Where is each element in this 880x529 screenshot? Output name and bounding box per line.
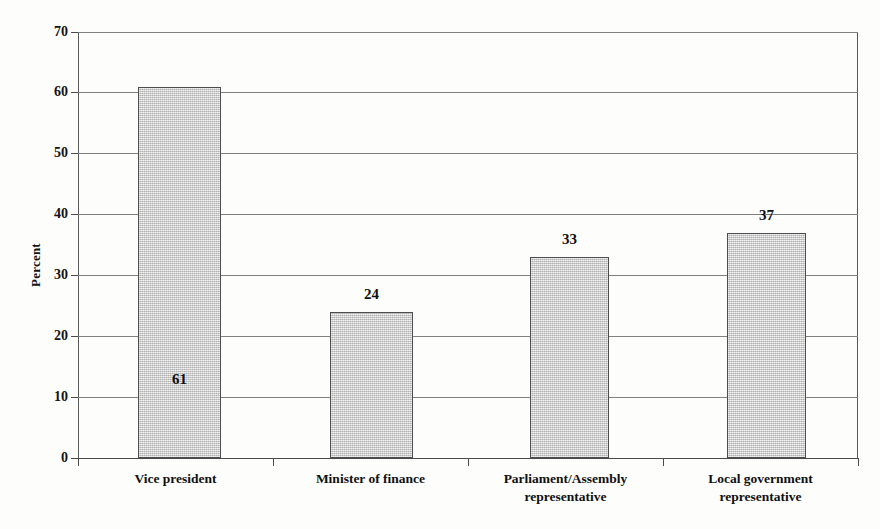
y-tick-mark-0 bbox=[71, 458, 78, 459]
y-tick-label-0: 0 bbox=[24, 450, 68, 466]
y-tick-mark-70 bbox=[71, 32, 78, 33]
y-tick-label-70: 70 bbox=[24, 24, 68, 40]
y-tick-label-50: 50 bbox=[24, 145, 68, 161]
x-category-label-parliament-assembly-representative: Parliament/Assembly representative bbox=[468, 470, 663, 506]
x-tick-mark-3 bbox=[663, 458, 664, 466]
y-tick-mark-30 bbox=[71, 275, 78, 276]
y-tick-mark-10 bbox=[71, 397, 78, 398]
bar-value-minister-of-finance: 24 bbox=[330, 286, 413, 303]
bar-minister-of-finance bbox=[330, 312, 413, 458]
x-category-label-line: representative bbox=[663, 488, 858, 506]
x-category-label-line: Minister of finance bbox=[273, 470, 468, 488]
x-category-label-line: Vice president bbox=[78, 470, 273, 488]
y-tick-label-30: 30 bbox=[24, 267, 68, 283]
bar-chart: Percent 0 10 20 30 40 50 60 70 61 24 33 bbox=[0, 0, 880, 529]
bar-value-local-government-representative: 37 bbox=[727, 207, 806, 224]
y-tick-mark-60 bbox=[71, 92, 78, 93]
x-category-label-line: representative bbox=[468, 488, 663, 506]
x-category-label-vice-president: Vice president bbox=[78, 470, 273, 488]
x-tick-mark-0 bbox=[78, 458, 79, 466]
x-category-label-minister-of-finance: Minister of finance bbox=[273, 470, 468, 488]
y-tick-mark-40 bbox=[71, 214, 78, 215]
x-category-label-line: Parliament/Assembly bbox=[468, 470, 663, 488]
plot-area: 61 24 33 37 bbox=[78, 32, 858, 458]
bar-vice-president bbox=[138, 87, 221, 458]
y-tick-label-60: 60 bbox=[24, 84, 68, 100]
x-tick-mark-1 bbox=[273, 458, 274, 466]
bar-value-parliament-assembly-representative: 33 bbox=[530, 231, 609, 248]
bar-local-government-representative bbox=[727, 233, 806, 458]
y-tick-label-20: 20 bbox=[24, 328, 68, 344]
gridline-70 bbox=[78, 32, 858, 33]
bar-parliament-assembly-representative bbox=[530, 257, 609, 458]
y-tick-label-10: 10 bbox=[24, 389, 68, 405]
x-tick-mark-4 bbox=[858, 458, 859, 466]
y-tick-mark-20 bbox=[71, 336, 78, 337]
plot-right-border bbox=[857, 32, 858, 458]
x-category-label-line: Local government bbox=[663, 470, 858, 488]
x-category-label-local-government-representative: Local government representative bbox=[663, 470, 858, 506]
y-tick-label-40: 40 bbox=[24, 206, 68, 222]
bar-value-vice-president: 61 bbox=[138, 371, 221, 388]
y-tick-mark-50 bbox=[71, 153, 78, 154]
x-tick-mark-2 bbox=[468, 458, 469, 466]
